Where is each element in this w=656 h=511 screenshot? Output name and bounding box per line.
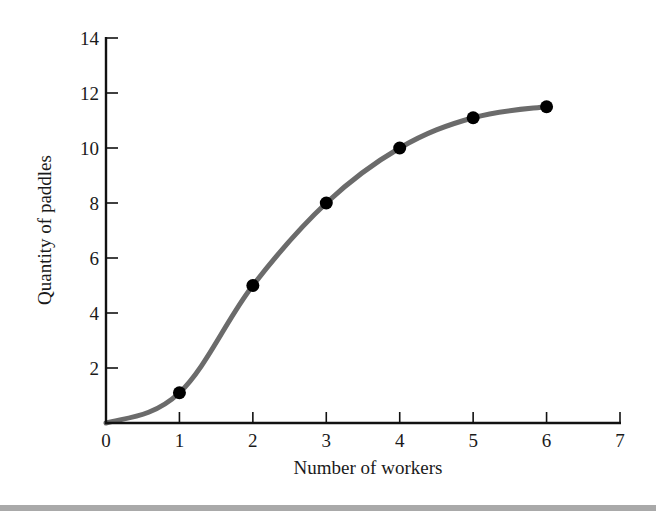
y-axis-label: Quantity of paddles <box>34 155 55 305</box>
chart: 2468101214 01234567 Number of workers Qu… <box>0 0 656 505</box>
data-point <box>320 197 333 210</box>
x-tick-label: 3 <box>322 430 332 451</box>
data-point <box>393 142 406 155</box>
data-point <box>540 100 553 113</box>
axes <box>105 37 621 424</box>
y-axis-ticks: 2468101214 <box>80 28 118 379</box>
bottom-gray-bar <box>0 505 656 511</box>
y-tick-label: 12 <box>80 83 99 104</box>
y-tick-label: 2 <box>90 358 100 379</box>
x-tick-label: 6 <box>542 430 552 451</box>
y-tick-label: 10 <box>80 138 99 159</box>
y-tick-label: 14 <box>80 28 100 49</box>
x-tick-label: 1 <box>175 430 185 451</box>
x-axis-ticks: 01234567 <box>101 412 625 451</box>
data-point <box>246 279 259 292</box>
y-tick-label: 4 <box>90 303 100 324</box>
data-markers <box>173 100 553 399</box>
curve-path <box>106 107 547 423</box>
data-point <box>467 111 480 124</box>
y-tick-label: 8 <box>90 193 100 214</box>
x-axis-label: Number of workers <box>294 457 443 478</box>
x-tick-label: 7 <box>615 430 625 451</box>
y-tick-label: 6 <box>90 248 100 269</box>
x-tick-label: 0 <box>101 430 111 451</box>
x-tick-label: 5 <box>468 430 478 451</box>
x-tick-label: 4 <box>395 430 405 451</box>
total-product-curve <box>106 107 547 423</box>
x-tick-label: 2 <box>248 430 258 451</box>
data-point <box>173 386 186 399</box>
